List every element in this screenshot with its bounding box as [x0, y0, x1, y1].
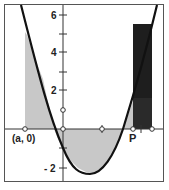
dark-rectangle-lower	[133, 98, 152, 129]
y-tick-label-6: 6	[51, 10, 57, 21]
y-tick-label-4: 4	[51, 47, 57, 58]
point-a	[23, 127, 28, 132]
label-a-point: (a, 0)	[12, 133, 35, 144]
y-tick-label-neg2: - 2	[44, 163, 56, 174]
y-tick-label-2: 2	[51, 85, 57, 96]
point-origin	[61, 127, 66, 132]
point-x2	[100, 127, 105, 132]
parabola-diagram: 6 4 2 - 2 (a, 0) P	[0, 0, 169, 190]
label-p-point: P	[129, 132, 136, 144]
point-y1	[61, 108, 66, 113]
point-rect-right	[150, 127, 155, 132]
point-p	[131, 127, 136, 132]
